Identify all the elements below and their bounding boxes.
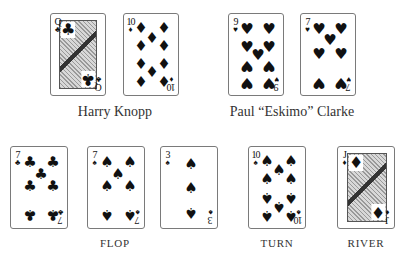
- spade-icon: ♠: [122, 179, 138, 194]
- diamond-icon: ♦: [133, 75, 149, 90]
- flop-card-seven-of-clubs: 7♣ 7♣ ♣ ♣ ♣ ♣ ♣ ♣ ♣: [10, 146, 68, 229]
- card-queen-of-clubs: ♣ ♣ Q♣ Q♣: [50, 13, 106, 96]
- turn-label: TURN: [247, 237, 307, 249]
- diamond-icon: ♦: [340, 159, 349, 167]
- player-name-paul-eskimo-clarke: Paul “Eskimo” Clarke: [222, 104, 362, 120]
- heart-icon: ♥: [311, 75, 327, 90]
- club-icon: ♣: [13, 159, 22, 167]
- club-icon: ♣: [45, 179, 61, 194]
- club-icon: ♣: [22, 179, 38, 194]
- card-index: 3♠: [163, 150, 172, 167]
- club-icon: ♣: [94, 75, 103, 83]
- spade-icon: ♠: [99, 207, 115, 222]
- diamond-icon: ♦: [349, 155, 363, 171]
- card-index: 7♣: [13, 150, 22, 167]
- spade-icon: ♠: [163, 159, 172, 167]
- spade-icon: ♠: [206, 208, 215, 216]
- player-name-harry-knopp: Harry Knopp: [65, 104, 165, 120]
- queen-face-art: ♣ ♣: [59, 20, 97, 89]
- spade-icon: ♠: [183, 157, 199, 172]
- heart-icon: ♥: [261, 58, 277, 73]
- diamond-icon: ♦: [156, 75, 172, 90]
- spade-icon: ♠: [99, 179, 115, 194]
- diamond-icon: ♦: [156, 39, 172, 54]
- club-icon: ♣: [61, 22, 75, 38]
- spade-icon: ♠: [90, 159, 99, 167]
- spade-icon: ♠: [183, 205, 199, 220]
- spade-icon: ♠: [283, 208, 299, 223]
- spade-icon: ♠: [259, 172, 275, 187]
- card-index: 3♠: [206, 208, 215, 225]
- card-index: Q♣: [94, 75, 103, 92]
- club-icon: ♣: [81, 71, 95, 87]
- flop-card-three-of-spades: 3♠ 3♠ ♠ ♠ ♠: [160, 146, 218, 229]
- card-seven-of-hearts: 7♥ 7♥ ♥ ♥ ♥ ♥ ♥ ♥ ♥: [300, 13, 356, 96]
- diamond-icon: ♦: [383, 208, 392, 216]
- card-index: Q♣: [53, 17, 62, 34]
- card-index: 7♠: [90, 150, 99, 167]
- card-index: J♦: [340, 150, 349, 167]
- turn-card-ten-of-spades: 10♠ 10♠ ♠ ♠ ♠ ♠ ♠ ♠ ♠ ♠ ♠ ♠: [248, 146, 306, 229]
- spade-icon: ♠: [283, 172, 299, 187]
- jack-face-art: ♦ ♦: [347, 153, 387, 222]
- card-index: J♦: [383, 208, 392, 225]
- flop-label: FLOP: [85, 237, 145, 249]
- heart-icon: ♥: [311, 47, 327, 62]
- card-nine-of-hearts: 9♥ 9♥ ♥ ♥ ♥ ♥ ♥ ♥ ♥ ♥ ♥: [228, 13, 284, 96]
- river-card-jack-of-diamonds: ♦ ♦ J♦ J♦: [337, 146, 395, 229]
- diamond-icon: ♦: [133, 39, 149, 54]
- heart-icon: ♥: [333, 75, 349, 90]
- club-icon: ♣: [22, 207, 38, 222]
- heart-icon: ♥: [261, 75, 277, 90]
- heart-icon: ♥: [333, 47, 349, 62]
- river-label: RIVER: [336, 237, 396, 249]
- flop-card-seven-of-spades: 7♠ 7♠ ♠ ♠ ♠ ♠ ♠ ♠ ♠: [87, 146, 145, 229]
- spade-icon: ♠: [122, 207, 138, 222]
- spade-icon: ♠: [183, 181, 199, 196]
- club-icon: ♣: [53, 26, 62, 34]
- card-ten-of-diamonds: 10♦ 10♦ ♦ ♦ ♦ ♦ ♦ ♦ ♦ ♦ ♦ ♦: [123, 13, 179, 96]
- heart-icon: ♥: [239, 58, 255, 73]
- club-icon: ♣: [45, 207, 61, 222]
- heart-icon: ♥: [239, 22, 255, 37]
- spade-icon: ♠: [259, 208, 275, 223]
- heart-icon: ♥: [239, 75, 255, 90]
- heart-icon: ♥: [261, 22, 277, 37]
